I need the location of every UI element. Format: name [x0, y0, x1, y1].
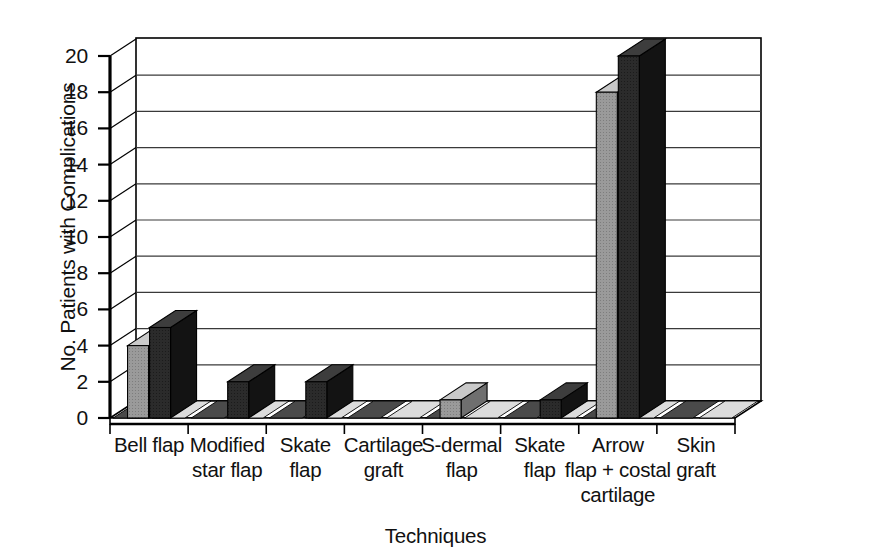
x-axis-title: Techniques — [0, 524, 871, 548]
bar-chart-figure: 02468101214161820 No. Patients with Comp… — [0, 0, 871, 555]
depth-connector — [110, 111, 136, 128]
depth-connector — [110, 256, 136, 273]
depth-connector — [110, 220, 136, 237]
bar-column — [618, 39, 665, 418]
depth-connector — [110, 148, 136, 165]
depth-connector — [110, 292, 136, 309]
depth-connector — [110, 39, 136, 56]
bar-column — [150, 311, 197, 419]
x-axis-tick-label-line: graft — [643, 457, 749, 482]
y-axis-title: No. Patients with Complications — [56, 62, 80, 392]
x-axis-tick-label-line: Skin — [643, 432, 749, 457]
y-axis-ticks — [98, 56, 110, 418]
depth-connector — [110, 75, 136, 92]
x-axis-tick-label: Skingraft — [643, 432, 749, 482]
y-axis-tick-label: 0 — [46, 407, 88, 428]
x-axis-tick-label-line: cartilage — [565, 482, 671, 507]
depth-wall-connectors — [110, 39, 136, 382]
depth-connector — [110, 184, 136, 201]
